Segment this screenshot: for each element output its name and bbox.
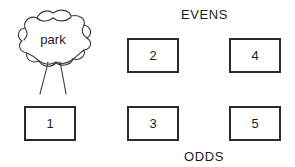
- tree-icon: [10, 6, 96, 98]
- park-tree: park: [10, 6, 96, 98]
- house-number: 2: [149, 49, 156, 62]
- house-box-1[interactable]: 1: [24, 106, 76, 141]
- house-number: 1: [46, 117, 53, 130]
- evens-side-label: EVENS: [181, 8, 228, 21]
- house-box-2[interactable]: 2: [127, 38, 179, 73]
- house-box-4[interactable]: 4: [229, 38, 281, 73]
- house-box-5[interactable]: 5: [229, 106, 281, 141]
- house-box-3[interactable]: 3: [127, 106, 179, 141]
- house-number: 3: [149, 117, 156, 130]
- odds-side-label: ODDS: [184, 150, 224, 163]
- house-number: 5: [251, 117, 258, 130]
- street-numbering-diagram: EVENS park 2 4 1 3 5: [0, 0, 295, 167]
- house-number: 4: [251, 49, 258, 62]
